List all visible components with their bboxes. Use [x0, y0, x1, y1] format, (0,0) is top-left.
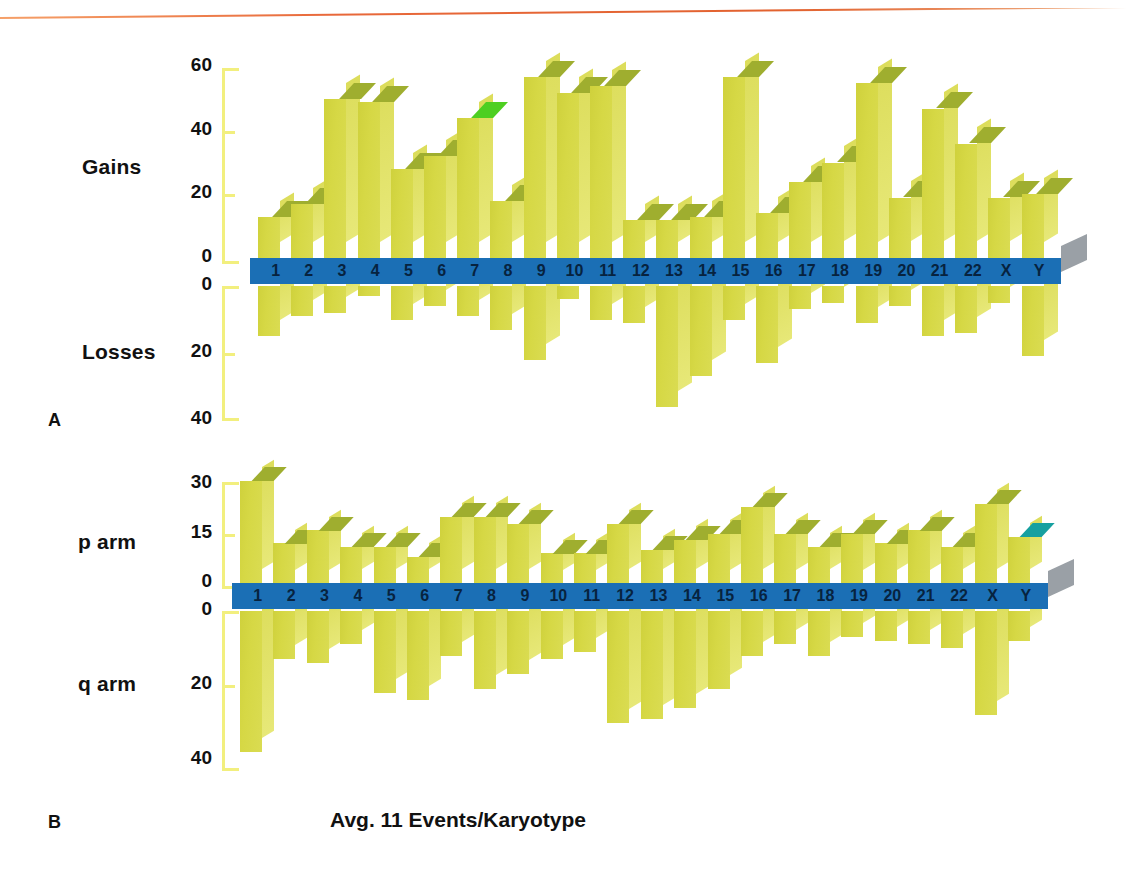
chart-bar [307, 611, 329, 663]
chart-bar [975, 504, 997, 583]
bar-face [273, 543, 295, 583]
bar-top-lid [920, 517, 955, 531]
chart-bar [407, 557, 429, 583]
bar-face [374, 611, 396, 693]
y-tick-label: 40 [170, 747, 212, 769]
bar-top-lid [319, 517, 354, 531]
chart-bar [1008, 537, 1030, 583]
chart-bar [1008, 611, 1030, 641]
chart-bar [741, 507, 763, 583]
bar-face [975, 611, 997, 715]
band-end-cap [1048, 559, 1074, 597]
bar-face [340, 547, 362, 583]
chart-bar [941, 547, 963, 583]
chart-bar [841, 611, 863, 637]
bar-face [541, 611, 563, 659]
bar-face [240, 611, 262, 752]
chart-bar [374, 547, 396, 583]
chart-bar [875, 543, 897, 583]
bar-face [708, 534, 730, 584]
bar-face [307, 611, 329, 663]
bar-face [808, 611, 830, 656]
chart-bar [674, 611, 696, 708]
bar-top-lid [786, 520, 821, 534]
chart-bar [307, 530, 329, 583]
axis-title-upper: p arm [78, 530, 136, 554]
bar-face [507, 611, 529, 674]
chart-bar [908, 530, 930, 583]
bar-face [307, 530, 329, 583]
bar-face [1008, 611, 1030, 641]
bar-face [808, 547, 830, 583]
chart-bar [273, 611, 295, 659]
chart-bar [474, 611, 496, 689]
bar-face [841, 611, 863, 637]
chart-bar [774, 534, 796, 584]
chart-bar [741, 611, 763, 656]
bar-face [440, 517, 462, 583]
figure-canvas: 604020002040GainsLosses12345678910111213… [0, 0, 1127, 871]
y-tickmark [222, 534, 235, 537]
chart-bar [574, 611, 596, 652]
bar-face [741, 611, 763, 656]
bar-top-lid [252, 467, 287, 481]
chart-bar [240, 611, 262, 752]
bar-face [507, 524, 529, 583]
y-tick-label: 0 [170, 570, 212, 592]
bar-face [273, 611, 295, 659]
bar-face [741, 507, 763, 583]
bar-face [541, 553, 563, 583]
bar-face [641, 550, 663, 583]
bar-face [774, 534, 796, 584]
chart-bar [507, 611, 529, 674]
bar-top-lid [553, 540, 588, 554]
bar-face [841, 534, 863, 584]
chart-bar [507, 524, 529, 583]
y-tick-label: 30 [170, 471, 212, 493]
chart-bar [340, 547, 362, 583]
bar-face [875, 611, 897, 641]
bar-face [474, 517, 496, 583]
bar-face [340, 611, 362, 644]
bar-face [674, 611, 696, 708]
y-tick-label: 20 [170, 672, 212, 694]
chart-bar [708, 534, 730, 584]
bar-face [908, 530, 930, 583]
chart-bar [541, 553, 563, 583]
bar-face [440, 611, 462, 656]
chart-bar [407, 611, 429, 700]
panel-a-letter: A [48, 410, 61, 431]
bar-top-lid [386, 533, 421, 547]
bar-face [607, 611, 629, 723]
chart-bar [340, 611, 362, 644]
chart-bar [440, 611, 462, 656]
chart-bar [474, 517, 496, 583]
bar-face [574, 611, 596, 652]
chart-bar [641, 611, 663, 719]
bar-top-lid [753, 493, 788, 507]
chart-bar [374, 611, 396, 693]
bar-face [774, 611, 796, 644]
bar-face [607, 524, 629, 583]
y-tick-label: 0 [170, 598, 212, 620]
bar-face [240, 481, 262, 583]
chart-bar [841, 534, 863, 584]
bar-top-lid [853, 520, 888, 534]
bar-face [407, 557, 429, 583]
chart-bar [808, 611, 830, 656]
chart-bar [908, 611, 930, 644]
panel-b-letter: B [48, 812, 61, 833]
bar-top-lid [486, 503, 521, 517]
bar-side [262, 590, 274, 739]
bar-face [641, 611, 663, 719]
chart-bar [541, 611, 563, 659]
chart-bar [440, 517, 462, 583]
y-tickmark [222, 685, 235, 688]
chart-bar [674, 540, 696, 583]
axis-bracket [222, 611, 239, 771]
y-tick-label: 15 [170, 521, 212, 543]
bar-face [875, 543, 897, 583]
bar-face [374, 547, 396, 583]
bar-face [975, 504, 997, 583]
chart-bar [607, 524, 629, 583]
